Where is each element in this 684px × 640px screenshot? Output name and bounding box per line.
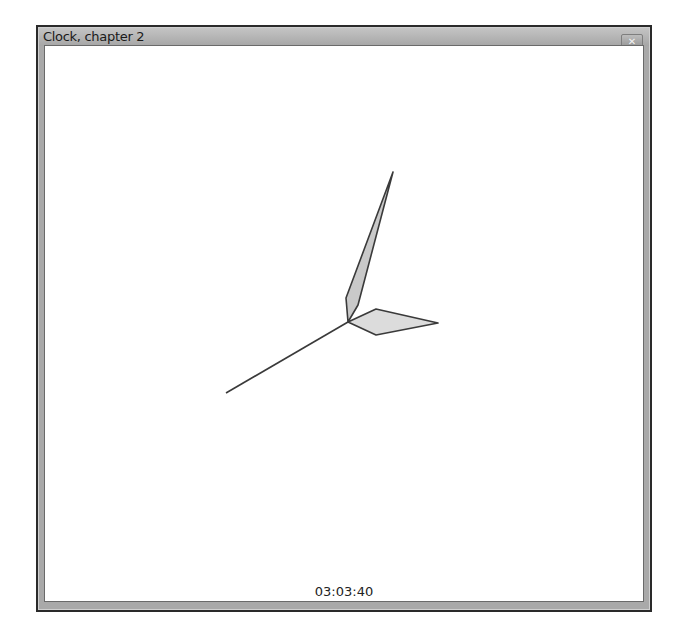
hour-hand bbox=[348, 309, 438, 335]
clock-window: Clock, chapter 2 ✕ 03:03:40 bbox=[36, 25, 652, 612]
window-title: Clock, chapter 2 bbox=[43, 29, 144, 44]
second-hand bbox=[226, 322, 348, 393]
minute-hand bbox=[346, 172, 393, 322]
clock-face bbox=[45, 46, 647, 604]
digital-time: 03:03:40 bbox=[45, 584, 643, 599]
title-bar[interactable]: Clock, chapter 2 ✕ bbox=[39, 28, 649, 46]
clock-canvas: 03:03:40 bbox=[44, 45, 644, 602]
